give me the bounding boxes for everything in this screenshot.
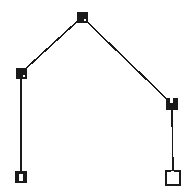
- diagram-canvas[interactable]: A white canvas showing five square node …: [0, 0, 196, 195]
- node-link-graph: [0, 0, 196, 195]
- node-apex-inner-dot: [84, 19, 86, 21]
- canvas-background: [0, 0, 196, 195]
- node-apex[interactable]: [77, 12, 87, 22]
- edge-right-wall[interactable]: [172, 109, 173, 171]
- node-right-foot-inner-slot: [171, 171, 174, 175]
- node-left-foot[interactable]: [16, 172, 27, 183]
- node-left-foot-inner-slot: [19, 174, 23, 181]
- node-left-shoulder[interactable]: [16, 68, 26, 78]
- node-right-shoulder-inner-slot: [170, 98, 173, 103]
- node-right-foot[interactable]: [166, 171, 180, 185]
- node-left-shoulder-inner-dot: [23, 75, 25, 77]
- node-right-shoulder[interactable]: [167, 98, 178, 110]
